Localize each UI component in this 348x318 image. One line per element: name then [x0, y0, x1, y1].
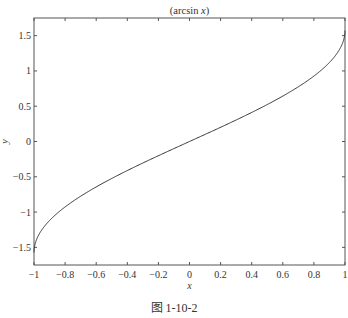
y-axis-label: y — [0, 139, 10, 145]
x-tick-label: 0 — [187, 269, 192, 280]
y-tick-label: −0.5 — [13, 171, 31, 182]
x-tick-label: −1 — [29, 269, 40, 280]
y-tick-label: −1.5 — [13, 242, 31, 253]
x-tick-label: −0.2 — [149, 269, 167, 280]
axes: −1−0.8−0.6−0.4−0.200.20.40.60.81−1.5−1−0… — [13, 18, 348, 280]
x-tick-label: 0.8 — [308, 269, 321, 280]
y-tick-label: 0 — [26, 136, 31, 147]
x-tick-label: 0.6 — [277, 269, 290, 280]
x-tick-label: −0.6 — [87, 269, 105, 280]
figure-caption: 图 1-10-2 — [0, 298, 348, 316]
y-tick-label: 1 — [26, 65, 31, 76]
chart-svg: −1−0.8−0.6−0.4−0.200.20.40.60.81−1.5−1−0… — [0, 0, 348, 318]
title-text: (arcsin — [170, 5, 201, 17]
y-tick-label: −1 — [20, 207, 31, 218]
y-tick-label: 0.5 — [19, 101, 32, 112]
y-tick-label: 1.5 — [19, 30, 32, 41]
x-tick-label: 1 — [343, 269, 348, 280]
series-line-arcsin — [34, 31, 345, 253]
title-suffix: ) — [206, 5, 210, 17]
chart-title: (arcsin x) — [170, 5, 210, 17]
x-axis-label: x — [186, 280, 192, 291]
x-tick-label: 0.2 — [214, 269, 227, 280]
x-tick-label: −0.8 — [56, 269, 74, 280]
x-tick-label: −0.4 — [118, 269, 136, 280]
x-tick-label: 0.4 — [245, 269, 258, 280]
